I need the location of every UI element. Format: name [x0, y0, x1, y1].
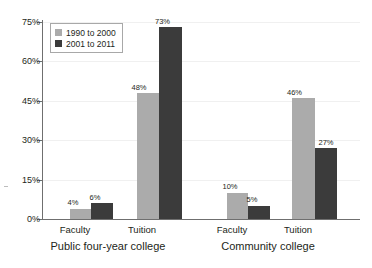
bar-value-community-faculty-2001: 5% — [241, 196, 263, 204]
legend-swatch-icon-2001-2011 — [55, 40, 62, 47]
bar-value-public-faculty-2001: 6% — [84, 194, 106, 202]
legend-swatch-icon-1990-2000 — [55, 29, 62, 36]
bar-chart: 75% 60% 45% 30% 15% 0% 4% 6% 48% 73% 10%… — [0, 0, 372, 268]
group-label-community-college: Community college — [198, 240, 338, 253]
bar-value-public-faculty-1990: 4% — [62, 199, 84, 207]
category-label-community-tuition: Tuition — [273, 224, 323, 235]
group-label-public-four-year-college: Public four-year college — [38, 240, 178, 253]
bar-public-tuition-1990 — [137, 93, 159, 219]
y-axis-label-30: 30% — [22, 135, 40, 145]
legend-label-1990-2000: 1990 to 2000 — [66, 28, 116, 38]
legend-item-1990-2000: 1990 to 2000 — [55, 27, 116, 38]
bar-public-tuition-2001 — [159, 27, 182, 219]
bar-value-community-tuition-1990: 46% — [283, 89, 306, 97]
bar-public-faculty-2001 — [91, 203, 113, 219]
y-axis-label-0: 0% — [27, 214, 40, 224]
bar-value-public-tuition-1990: 48% — [128, 84, 150, 92]
bar-value-community-faculty-1990: 10% — [219, 183, 241, 191]
gridline-60 — [42, 61, 360, 62]
bar-value-community-tuition-2001: 27% — [315, 139, 337, 147]
bar-community-tuition-2001 — [315, 148, 337, 219]
bar-community-tuition-1990 — [292, 98, 315, 219]
category-label-community-faculty: Faculty — [207, 224, 257, 235]
bar-value-public-tuition-2001: 73% — [151, 18, 174, 26]
bar-community-faculty-2001 — [248, 206, 270, 219]
legend-item-2001-2011: 2001 to 2011 — [55, 38, 116, 49]
legend-label-2001-2011: 2001 to 2011 — [66, 39, 115, 49]
category-label-public-faculty: Faculty — [50, 224, 100, 235]
x-axis-line — [42, 219, 360, 220]
legend: 1990 to 2000 2001 to 2011 — [50, 23, 123, 53]
y-axis-label-75: 75% — [22, 17, 40, 27]
category-label-public-tuition: Tuition — [117, 224, 167, 235]
y-axis-label-45: 45% — [22, 96, 40, 106]
bar-public-faculty-1990 — [70, 209, 91, 220]
y-axis-label-60: 60% — [22, 56, 40, 66]
scan-artifact-left — [4, 186, 8, 187]
y-axis-line — [42, 20, 43, 220]
y-axis-label-15: 15% — [22, 175, 40, 185]
